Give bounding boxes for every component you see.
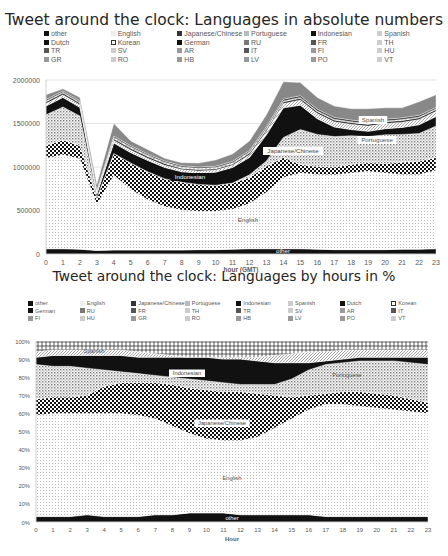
svg-text:60%: 60%	[18, 411, 30, 417]
svg-text:11: 11	[229, 259, 236, 266]
svg-text:2: 2	[68, 527, 72, 533]
svg-text:16: 16	[313, 259, 321, 266]
svg-text:6: 6	[137, 527, 141, 533]
svg-text:23: 23	[425, 527, 432, 533]
svg-text:16: 16	[305, 527, 312, 533]
svg-text:12: 12	[246, 259, 254, 266]
svg-text:15: 15	[296, 259, 304, 266]
svg-text:7: 7	[163, 259, 167, 266]
svg-text:hour (GMT): hour (GMT)	[223, 266, 258, 274]
svg-text:1000000: 1000000	[13, 164, 40, 171]
svg-text:1500000: 1500000	[13, 120, 40, 127]
svg-text:80%: 80%	[18, 375, 30, 381]
svg-text:21: 21	[398, 259, 406, 266]
svg-text:4: 4	[112, 259, 116, 266]
svg-text:Indonesian: Indonesian	[175, 173, 206, 180]
svg-text:10: 10	[212, 259, 220, 266]
svg-text:0: 0	[44, 259, 48, 266]
charts-canvas: 0500000100000015000002000000012345678910…	[0, 0, 448, 556]
svg-text:13: 13	[263, 259, 271, 266]
svg-text:9: 9	[197, 259, 201, 266]
svg-text:9: 9	[188, 527, 192, 533]
svg-text:Hour: Hour	[225, 536, 240, 542]
svg-text:Indonesian: Indonesian	[173, 370, 201, 376]
svg-text:11: 11	[220, 527, 227, 533]
svg-text:Spanish: Spanish	[362, 116, 385, 123]
svg-text:4: 4	[103, 527, 107, 533]
svg-text:10%: 10%	[18, 501, 30, 507]
svg-text:1: 1	[51, 527, 55, 533]
svg-text:5: 5	[120, 527, 124, 533]
svg-text:20: 20	[374, 527, 381, 533]
svg-text:3: 3	[85, 527, 89, 533]
svg-text:70%: 70%	[18, 393, 30, 399]
svg-text:1: 1	[61, 259, 65, 266]
svg-text:Portuguese: Portuguese	[332, 372, 362, 378]
svg-text:23: 23	[432, 259, 440, 266]
svg-text:8: 8	[180, 259, 184, 266]
svg-text:18: 18	[339, 527, 346, 533]
svg-text:0: 0	[34, 527, 38, 533]
svg-text:10: 10	[203, 527, 210, 533]
svg-text:2000000: 2000000	[13, 77, 40, 84]
svg-text:17: 17	[322, 527, 329, 533]
chart1-plot: 0500000100000015000002000000012345678910…	[13, 77, 440, 275]
chart2-plot: 0%10%20%30%40%50%60%70%80%90%100%0123456…	[15, 339, 432, 543]
svg-text:30%: 30%	[18, 465, 30, 471]
svg-text:Spanish: Spanish	[84, 348, 105, 354]
svg-text:22: 22	[415, 259, 423, 266]
svg-text:7: 7	[154, 527, 158, 533]
svg-text:21: 21	[391, 527, 398, 533]
svg-text:19: 19	[356, 527, 363, 533]
svg-text:14: 14	[279, 259, 287, 266]
svg-text:English: English	[222, 475, 241, 481]
svg-text:0: 0	[36, 251, 40, 258]
svg-text:13: 13	[254, 527, 261, 533]
svg-text:Portuguese: Portuguese	[361, 136, 393, 143]
svg-text:20%: 20%	[18, 483, 30, 489]
svg-text:18: 18	[347, 259, 355, 266]
svg-text:14: 14	[271, 527, 278, 533]
svg-text:19: 19	[364, 259, 372, 266]
svg-text:other: other	[225, 515, 238, 521]
svg-text:Japanese/Chinese: Japanese/Chinese	[198, 420, 246, 426]
svg-text:90%: 90%	[18, 357, 30, 363]
svg-text:2: 2	[78, 259, 82, 266]
svg-text:8: 8	[171, 527, 175, 533]
svg-text:other: other	[276, 247, 290, 254]
svg-text:English: English	[238, 216, 259, 223]
svg-text:Japanese/Chinese: Japanese/Chinese	[267, 147, 319, 154]
svg-text:22: 22	[408, 527, 415, 533]
svg-text:5: 5	[129, 259, 133, 266]
svg-text:100%: 100%	[15, 339, 30, 345]
svg-text:15: 15	[288, 527, 295, 533]
svg-text:0%: 0%	[22, 520, 30, 526]
svg-text:50%: 50%	[18, 429, 30, 435]
svg-text:17: 17	[330, 259, 338, 266]
svg-text:500000: 500000	[17, 207, 40, 214]
svg-text:12: 12	[237, 527, 244, 533]
svg-text:20: 20	[381, 259, 389, 266]
svg-text:6: 6	[146, 259, 150, 266]
svg-text:40%: 40%	[18, 447, 30, 453]
svg-text:3: 3	[95, 259, 99, 266]
